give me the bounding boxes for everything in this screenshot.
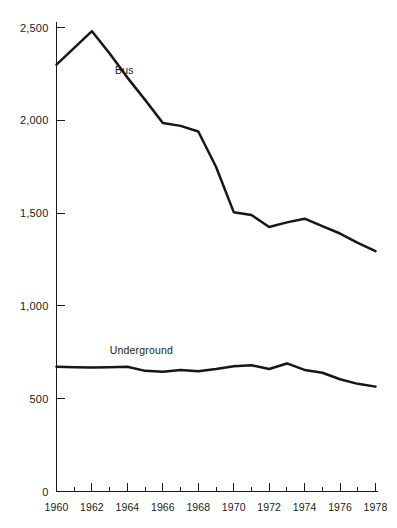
x-tick-label: 1960 (45, 501, 69, 513)
y-tick-label: 1,500 (20, 207, 49, 219)
x-tick-label: 1970 (222, 501, 246, 513)
y-tick-label: 2,000 (20, 114, 49, 126)
y-tick-label: 500 (30, 393, 49, 405)
y-axis-ticks (57, 28, 65, 492)
x-tick-label: 1978 (364, 501, 388, 513)
series-label-bus: Bus (115, 64, 134, 76)
x-tick-label: 1962 (80, 501, 104, 513)
series-inline-labels: BusUnderground (110, 64, 173, 356)
x-tick-label: 1968 (186, 501, 210, 513)
y-tick-label: 2,500 (20, 22, 49, 34)
series-line-underground (57, 363, 376, 386)
line-chart: 05001,0001,5002,0002,500 196019621964196… (0, 0, 397, 528)
series-label-underground: Underground (110, 344, 173, 356)
x-axis-minor-ticks (74, 487, 358, 492)
y-axis-group: 05001,0001,5002,0002,500 (20, 22, 65, 498)
chart-container: 05001,0001,5002,0002,500 196019621964196… (0, 0, 397, 528)
x-tick-label: 1964 (116, 501, 140, 513)
y-axis-tick-labels: 05001,0001,5002,0002,500 (20, 22, 49, 498)
y-tick-label: 1,000 (20, 300, 49, 312)
x-tick-label: 1976 (328, 501, 352, 513)
x-axis-tick-labels: 1960196219641966196819701972197419761978 (45, 501, 388, 513)
x-tick-label: 1966 (151, 501, 175, 513)
data-series-group (57, 31, 376, 386)
x-tick-label: 1974 (293, 501, 317, 513)
x-axis-group: 1960196219641966196819701972197419761978 (45, 483, 388, 513)
y-tick-label: 0 (42, 486, 48, 498)
x-tick-label: 1972 (257, 501, 281, 513)
series-line-bus (57, 31, 376, 251)
